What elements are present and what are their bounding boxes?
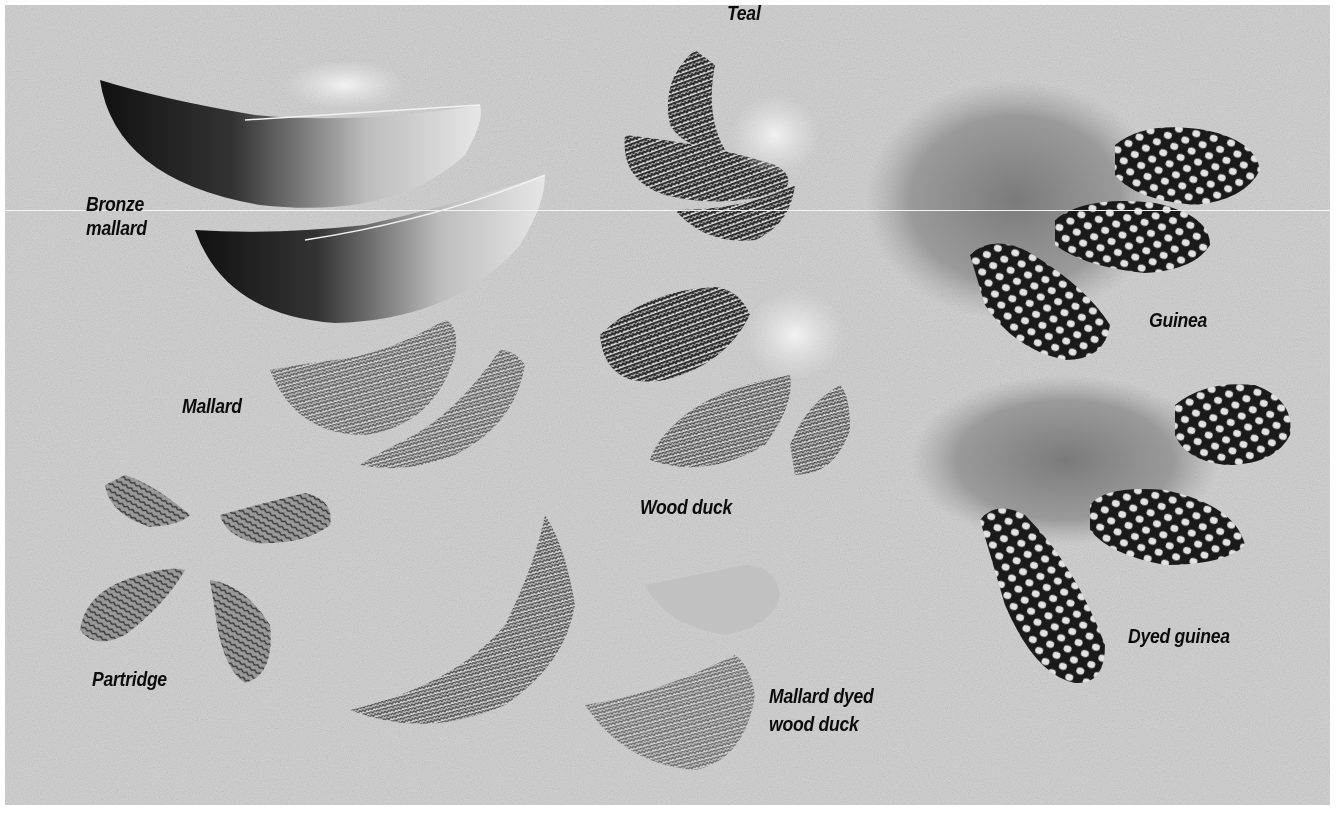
label-dyed-guinea: Dyed guinea (1128, 625, 1230, 647)
label-bronze-mallard-line1: Bronze (86, 193, 144, 215)
label-mallard-dyed-wood-duck-line2: wood duck (769, 713, 859, 735)
label-guinea: Guinea (1149, 309, 1207, 331)
label-bronze-mallard-line2: mallard (86, 217, 147, 239)
label-partridge: Partridge (92, 668, 167, 690)
label-mallard: Mallard (182, 395, 242, 417)
label-wood-duck: Wood duck (640, 496, 732, 518)
scan-line-artifact (5, 210, 1330, 211)
label-teal: Teal (727, 2, 761, 24)
label-mallard-dyed-wood-duck-line1: Mallard dyed (769, 685, 873, 707)
